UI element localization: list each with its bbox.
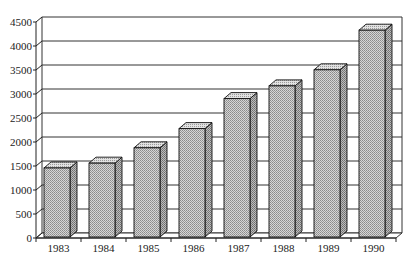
x-tick-label: 1987	[228, 242, 251, 254]
bar-1985	[134, 142, 167, 237]
x-tick-label: 1986	[183, 242, 206, 254]
y-tick-label: 4500	[10, 16, 33, 28]
x-tick-label: 1990	[363, 242, 386, 254]
bars	[44, 24, 392, 237]
bar-1986	[179, 123, 212, 237]
x-tick-label: 1983	[48, 242, 71, 254]
chart-canvas: 0500100015002000250030003500400045001983…	[0, 0, 410, 268]
bar-1990	[359, 24, 392, 237]
bar-1989	[314, 64, 347, 237]
y-tick-label: 1500	[10, 160, 33, 172]
y-tick-label: 4000	[10, 40, 33, 52]
x-tick-label: 1984	[93, 242, 116, 254]
y-tick-label: 0	[27, 232, 33, 244]
bar-1983	[44, 162, 77, 237]
x-tick-label: 1985	[138, 242, 161, 254]
bar-1984	[89, 157, 122, 237]
x-tick-label: 1989	[318, 242, 341, 254]
y-tick-label: 3500	[10, 64, 33, 76]
y-tick-label: 2000	[10, 136, 33, 148]
bar-1987	[224, 93, 257, 237]
y-tick-label: 2500	[10, 112, 33, 124]
y-tick-label: 3000	[10, 88, 33, 100]
bar-chart: 0500100015002000250030003500400045001983…	[0, 0, 410, 268]
x-tick-label: 1988	[273, 242, 296, 254]
y-tick-label: 500	[16, 208, 33, 220]
y-tick-label: 1000	[10, 184, 33, 196]
bar-1988	[269, 80, 302, 237]
